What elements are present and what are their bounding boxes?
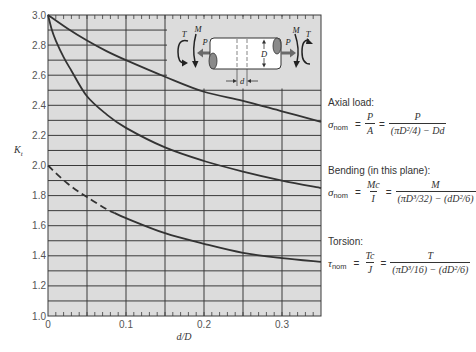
- y-tick-label: 2.0: [32, 160, 46, 171]
- axial-equals-2: =: [379, 119, 385, 130]
- bending-frac2-numerator: M: [429, 180, 441, 191]
- y-tick-label: 1.2: [32, 280, 46, 291]
- left-moment-label: M: [193, 24, 202, 34]
- axial-equals-1: =: [355, 119, 361, 130]
- torsion-label: Torsion:: [328, 236, 470, 248]
- bending-equals-2: =: [386, 187, 392, 198]
- x-tick-label: 0: [45, 319, 51, 330]
- y-tick-label: 1.8: [32, 190, 46, 201]
- bending-formula: σnom = McI = M(πD³/32) − (dD²/6): [328, 181, 476, 203]
- axial-lhs-subscript: nom: [333, 123, 348, 132]
- bending-annotation: Bending (in this plane): σnom = McI = M(…: [328, 165, 476, 203]
- x-axis-title: d/D: [177, 331, 193, 342]
- y-axis-tick-labels: 1.01.21.41.61.82.02.22.42.62.83.0: [32, 10, 46, 322]
- axial-frac1-numerator: P: [365, 112, 375, 123]
- y-tick-label: 2.4: [32, 100, 46, 111]
- shaft-body: [210, 38, 281, 69]
- torsion-formula: τnom = TcJ = T(πD³/16) − (dD²/6): [328, 252, 470, 274]
- bending-fraction-1: McI: [365, 180, 382, 204]
- y-axis-title: Kt: [13, 144, 24, 158]
- x-tick-label: 0.3: [275, 319, 289, 330]
- torsion-frac1-denominator: J: [366, 262, 374, 275]
- torsion-fraction-2: T(πD³/16) − (dD²/6): [390, 251, 470, 275]
- torsion-frac2-numerator: T: [426, 251, 436, 262]
- axial-load-formula: σnom = PA = P(πD²/4) − Dd: [328, 113, 446, 135]
- diameter-label: D: [260, 49, 268, 59]
- bending-fraction-2: M(πD³/32) − (dD²/6): [396, 180, 476, 204]
- x-tick-label: 0.1: [119, 319, 133, 330]
- y-tick-label: 2.6: [32, 70, 46, 81]
- bending-frac1-denominator: I: [370, 191, 377, 204]
- axial-fraction-1: PA: [365, 112, 375, 136]
- x-axis-tick-labels: 00.10.20.3: [45, 319, 289, 330]
- y-tick-label: 1.6: [32, 220, 46, 231]
- torsion-frac1-numerator: Tc: [363, 251, 376, 262]
- bending-equals-1: =: [355, 187, 361, 198]
- axial-frac2-denominator: (πD²/4) − Dd: [389, 123, 447, 136]
- axial-frac2-numerator: P: [413, 112, 423, 123]
- bending-frac1-numerator: Mc: [365, 180, 382, 191]
- right-moment-label: M: [291, 25, 300, 35]
- bending-lhs-subscript: nom: [333, 191, 348, 200]
- x-tick-label: 0.2: [197, 319, 211, 330]
- y-tick-label: 1.4: [32, 250, 46, 261]
- y-tick-label: 2.2: [32, 130, 46, 141]
- torsion-fraction-1: TcJ: [363, 251, 376, 275]
- axial-fraction-2: P(πD²/4) − Dd: [389, 112, 447, 136]
- y-tick-label: 2.8: [32, 40, 46, 51]
- bending-label: Bending (in this plane):: [328, 165, 476, 177]
- right-force-label: P: [284, 37, 290, 47]
- torsion-equals-1: =: [354, 258, 360, 269]
- y-tick-label: 3.0: [32, 10, 46, 21]
- shaft-right-end-section: [273, 38, 281, 54]
- torsion-annotation: Torsion: τnom = TcJ = T(πD³/16) − (dD²/6…: [328, 236, 470, 274]
- shaft-left-end-section: [209, 53, 217, 69]
- bending-frac2-denominator: (πD³/32) − (dD²/6): [396, 191, 476, 204]
- torsion-lhs-subscript: nom: [332, 262, 347, 271]
- axial-frac1-denominator: A: [365, 123, 375, 136]
- y-axis-title-sub: t: [21, 150, 24, 158]
- axial-load-annotation: Axial load: σnom = PA = P(πD²/4) − Dd: [328, 97, 446, 135]
- torsion-equals-2: =: [380, 258, 386, 269]
- torsion-frac2-denominator: (πD³/16) − (dD²/6): [390, 262, 470, 275]
- axial-load-label: Axial load:: [328, 97, 446, 109]
- left-force-label: P: [201, 37, 207, 47]
